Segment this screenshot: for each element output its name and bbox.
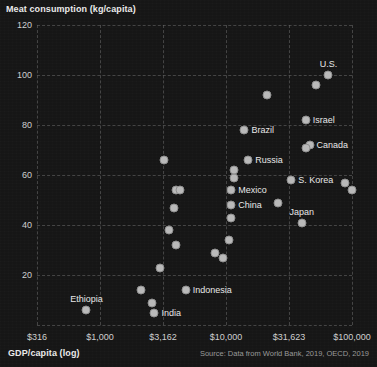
gridline-vertical <box>163 25 164 325</box>
gridline-horizontal <box>37 325 352 326</box>
data-point[interactable] <box>82 306 91 315</box>
data-point[interactable] <box>287 176 296 185</box>
data-point-label: China <box>238 200 262 210</box>
data-point-label: S. Korea <box>298 175 333 185</box>
data-point[interactable] <box>229 166 238 175</box>
data-point-label: Brazil <box>251 125 274 135</box>
data-point-label: Israel <box>313 115 335 125</box>
gridline-vertical <box>352 25 353 325</box>
x-axis-title: GDP/capita (log) <box>8 348 80 358</box>
y-axis-tick-label: 120 <box>17 20 32 30</box>
data-point[interactable] <box>175 186 184 195</box>
y-axis-tick-label: 60 <box>22 170 32 180</box>
y-axis-title: Meat consumption (kg/capita) <box>6 4 136 14</box>
data-point[interactable] <box>240 126 249 135</box>
data-point[interactable] <box>171 241 180 250</box>
data-point[interactable] <box>219 253 228 262</box>
data-point[interactable] <box>227 213 236 222</box>
data-point[interactable] <box>312 81 321 90</box>
data-point[interactable] <box>224 236 233 245</box>
gridline-horizontal <box>37 125 352 126</box>
data-point-label: Ethiopia <box>70 294 103 304</box>
x-axis-tick-label: $316 <box>27 332 47 342</box>
data-point[interactable] <box>159 156 168 165</box>
gridline-horizontal <box>37 75 352 76</box>
data-point-label: Russia <box>255 155 283 165</box>
y-axis-tick-label: 80 <box>22 120 32 130</box>
data-point[interactable] <box>136 286 145 295</box>
x-axis-tick-label: $31,623 <box>273 332 306 342</box>
gridline-horizontal <box>37 25 352 26</box>
data-point[interactable] <box>164 226 173 235</box>
gridline-vertical <box>37 25 38 325</box>
gridline-vertical <box>226 25 227 325</box>
x-axis-tick-label: $1,000 <box>86 332 114 342</box>
data-point-label: India <box>161 308 181 318</box>
data-point[interactable] <box>297 218 306 227</box>
x-axis-tick-label: $10,000 <box>210 332 243 342</box>
data-point[interactable] <box>274 198 283 207</box>
data-point[interactable] <box>262 91 271 100</box>
data-point-label: Mexico <box>238 185 267 195</box>
data-point[interactable] <box>148 298 157 307</box>
data-point[interactable] <box>348 186 357 195</box>
x-axis-tick-label: $100,000 <box>333 332 371 342</box>
data-point-label: Canada <box>317 140 349 150</box>
data-point-label: U.S. <box>320 59 338 69</box>
data-point[interactable] <box>244 156 253 165</box>
y-axis-tick-label: 40 <box>22 220 32 230</box>
data-point[interactable] <box>227 201 236 210</box>
data-point[interactable] <box>170 203 179 212</box>
gridline-horizontal <box>37 275 352 276</box>
data-point-label: Indonesia <box>193 285 232 295</box>
scatter-chart: Meat consumption (kg/capita) 12010080604… <box>0 0 377 367</box>
gridline-vertical <box>100 25 101 325</box>
data-point[interactable] <box>156 263 165 272</box>
y-axis-tick-label: 20 <box>22 270 32 280</box>
data-point[interactable] <box>301 143 310 152</box>
data-point-label: Japan <box>290 207 315 217</box>
data-point[interactable] <box>227 186 236 195</box>
data-point[interactable] <box>150 308 159 317</box>
data-point[interactable] <box>301 116 310 125</box>
data-point[interactable] <box>324 71 333 80</box>
source-note: Source: Data from World Bank, 2019, OECD… <box>200 349 369 358</box>
x-axis-tick-label: $3,162 <box>149 332 177 342</box>
data-point[interactable] <box>181 286 190 295</box>
y-axis-tick-label: 100 <box>17 70 32 80</box>
plot-area: 12010080604020$316$1,000$3,162$10,000$31… <box>37 25 352 325</box>
